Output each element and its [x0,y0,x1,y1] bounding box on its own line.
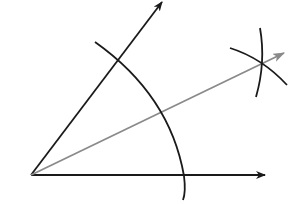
large-arc [95,42,185,200]
small-arc-1 [230,48,287,85]
diagram-canvas [0,0,304,204]
bisector-ray [31,53,284,175]
bisector-diagram [0,0,304,204]
upper-ray [31,2,162,175]
